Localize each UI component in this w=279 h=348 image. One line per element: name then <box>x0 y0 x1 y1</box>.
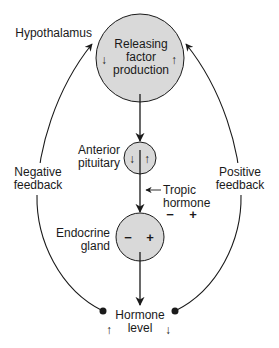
releasing-factor-line-3: production <box>113 63 169 77</box>
hypothalamus-down-arrow-icon: ↓ <box>101 53 107 67</box>
endocrine-gland-label-2: gland <box>81 239 110 253</box>
positive-feedback-origin-dot <box>172 308 179 315</box>
hormone-level-label-1: Hormone <box>115 308 165 322</box>
endocrine-feedback-diagram: Releasing factor production ↓ ↑ Hypothal… <box>0 0 279 348</box>
releasing-factor-line-2: factor <box>126 50 156 64</box>
pituitary-down-arrow-icon: ↓ <box>129 152 135 166</box>
negative-feedback-origin-dot <box>100 308 107 315</box>
endocrine-gland-label-1: Endocrine <box>56 226 110 240</box>
hypothalamus-up-arrow-icon: ↑ <box>171 53 177 67</box>
negative-feedback-label-2: feedback <box>14 178 64 192</box>
tropic-hormone-label-1: Tropic <box>163 183 196 197</box>
releasing-factor-line-1: Releasing <box>114 37 167 51</box>
negative-feedback-label-1: Negative <box>14 165 62 179</box>
anterior-pituitary-label-1: Anterior <box>78 143 120 157</box>
anterior-pituitary-label-2: pituitary <box>78 156 120 170</box>
tropic-plus-sign: + <box>189 207 197 222</box>
tropic-minus-sign: − <box>166 207 174 222</box>
positive-feedback-label-2: feedback <box>216 178 266 192</box>
endocrine-plus-sign: + <box>146 230 154 245</box>
pituitary-up-arrow-icon: ↑ <box>144 152 150 166</box>
hormone-down-arrow-icon: ↓ <box>165 323 171 337</box>
positive-feedback-label-1: Positive <box>219 165 261 179</box>
hypothalamus-label: Hypothalamus <box>15 26 92 40</box>
endocrine-minus-sign: − <box>124 230 132 245</box>
hormone-level-label-2: level <box>128 321 153 335</box>
hormone-up-arrow-icon: ↑ <box>106 323 112 337</box>
